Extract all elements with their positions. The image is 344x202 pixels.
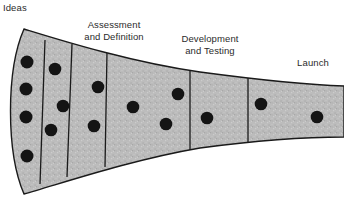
- label-development-and-testing: Development and Testing: [157, 33, 263, 56]
- idea-dot: [311, 111, 324, 124]
- label-launch: Launch: [288, 57, 338, 69]
- idea-dot: [172, 88, 185, 101]
- idea-dot: [127, 101, 140, 114]
- idea-dot: [88, 120, 101, 133]
- idea-dot: [160, 118, 173, 131]
- idea-dot: [21, 56, 34, 69]
- idea-dot: [57, 100, 70, 113]
- idea-dot: [20, 111, 33, 124]
- label-ideas: Ideas: [3, 2, 27, 14]
- funnel-graphic: [0, 0, 344, 202]
- idea-dot: [45, 124, 58, 137]
- idea-dot: [20, 83, 33, 96]
- idea-dot: [49, 63, 62, 76]
- idea-dot: [201, 112, 214, 125]
- idea-dot: [255, 98, 268, 111]
- idea-dot: [92, 81, 105, 94]
- funnel-diagram: Ideas Assessment and Definition Developm…: [0, 0, 344, 202]
- idea-dot: [21, 150, 34, 163]
- label-assessment-and-definition: Assessment and Definition: [62, 19, 166, 42]
